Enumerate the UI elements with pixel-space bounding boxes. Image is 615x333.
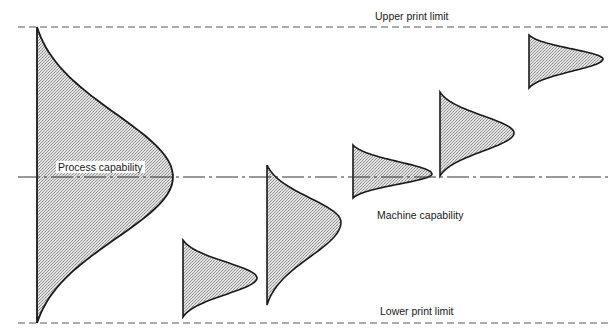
machine-capability-curve-3 xyxy=(353,145,432,198)
machine-capability-label: Machine capability xyxy=(377,209,463,221)
upper-print-limit-label: Upper print limit xyxy=(375,10,449,22)
machine-capability-curve-5 xyxy=(529,35,603,88)
process-capability-curve xyxy=(37,27,173,323)
machine-capability-curve-4 xyxy=(440,92,514,176)
machine-capability-curve-2 xyxy=(267,165,341,305)
process-capability-label: Process capability xyxy=(56,161,145,173)
machine-capability-curve-1 xyxy=(183,240,257,317)
lower-print-limit-label: Lower print limit xyxy=(380,305,454,317)
